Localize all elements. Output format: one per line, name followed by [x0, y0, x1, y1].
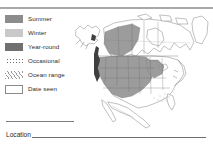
legend-item-winter: Winter: [5, 26, 77, 40]
alaska-outline: [76, 25, 100, 46]
location-write-in-line[interactable]: [32, 137, 206, 138]
range-map-legend: Summer Winter Year-round Occasional Ocea…: [5, 12, 77, 96]
legend-item-year-round: Year-round: [5, 40, 77, 54]
year-round-swatch-icon: [5, 43, 23, 51]
legend-item-date-seen: Date seen: [5, 82, 77, 96]
legend-label-date-seen: Date seen: [28, 85, 57, 93]
legend-label-ocean-range: Ocean range: [28, 71, 65, 79]
legend-item-summer: Summer: [5, 12, 77, 26]
north-america-range-map: [74, 10, 213, 132]
ocean-range-swatch-icon: [5, 71, 23, 79]
legend-label-winter: Winter: [28, 29, 46, 37]
location-label: Location: [6, 131, 31, 139]
legend-label-occasional: Occasional: [28, 57, 60, 65]
winter-swatch-icon: [5, 29, 23, 37]
florida-outline: [167, 94, 175, 110]
range-map-panel: Summer Winter Year-round Occasional Ocea…: [0, 0, 213, 149]
legend-bottom-divider: [6, 121, 74, 122]
legend-item-occasional: Occasional: [5, 54, 77, 68]
legend-label-summer: Summer: [28, 15, 52, 23]
legend-label-year-round: Year-round: [28, 43, 59, 51]
range-map-graphic: [74, 10, 213, 132]
greenland-outline: [192, 16, 208, 44]
top-divider-rule: [0, 7, 213, 9]
summer-swatch-icon: [5, 15, 23, 23]
legend-item-ocean-range: Ocean range: [5, 68, 77, 82]
location-field[interactable]: Location: [6, 131, 206, 139]
occasional-swatch-icon: [5, 57, 23, 65]
date-seen-checkbox-icon[interactable]: [5, 85, 23, 94]
